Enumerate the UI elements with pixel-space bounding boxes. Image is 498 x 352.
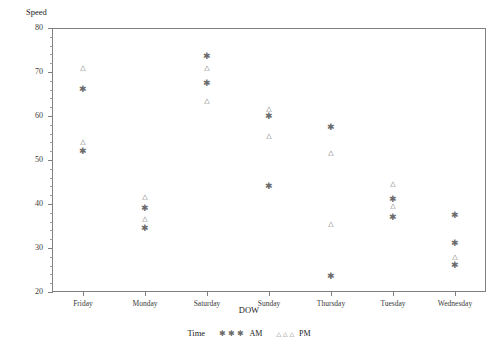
plot-area: 20304050607080 FridayMondaySaturdaySunda… (52, 28, 486, 292)
x-axis-tick (145, 291, 146, 296)
y-axis-minor-tick (50, 90, 53, 91)
data-point-am: ✱ (265, 180, 273, 189)
y-axis-minor-tick (50, 54, 53, 55)
x-axis-tick (331, 291, 332, 296)
y-axis-minor-tick (50, 169, 53, 170)
y-axis-major-tick: 60 (48, 116, 53, 117)
y-axis-minor-tick (50, 125, 53, 126)
y-axis-minor-tick (50, 63, 53, 64)
y-axis-major-tick: 80 (48, 28, 53, 29)
y-axis-minor-tick (50, 195, 53, 196)
legend-entry-am[interactable]: ✱ ✱ ✱ AM (219, 329, 262, 338)
x-axis-tick (455, 291, 456, 296)
data-point-pm: △ (390, 181, 395, 188)
asterisk-icon: ✱ ✱ ✱ (219, 329, 244, 338)
y-axis-minor-tick (50, 283, 53, 284)
y-axis-tick-label: 40 (35, 200, 43, 208)
y-axis-minor-tick (50, 274, 53, 275)
data-point-am: ✱ (451, 259, 459, 268)
y-axis-tick-label: 70 (35, 68, 43, 76)
data-point-am: ✱ (203, 76, 211, 85)
data-point-am: ✱ (389, 211, 397, 220)
y-axis-minor-tick (50, 230, 53, 231)
data-point-am: ✱ (451, 208, 459, 217)
y-axis-major-tick: 20 (48, 292, 53, 293)
data-point-pm: △ (80, 64, 85, 71)
x-axis-title: DOW (0, 306, 498, 315)
data-point-pm: △ (328, 220, 333, 227)
y-axis-major-tick: 30 (48, 248, 53, 249)
x-axis-tick (269, 291, 270, 296)
y-axis-minor-tick (50, 186, 53, 187)
y-axis-major-tick: 70 (48, 72, 53, 73)
y-axis-tick-label: 20 (35, 288, 43, 296)
data-point-am: ✱ (265, 109, 273, 118)
data-point-pm: △ (204, 97, 209, 104)
y-axis-minor-tick (50, 107, 53, 108)
data-point-pm: △ (80, 139, 85, 146)
data-point-am: ✱ (79, 145, 87, 154)
y-axis-minor-tick (50, 142, 53, 143)
data-point-pm: △ (390, 203, 395, 210)
data-point-am: ✱ (327, 120, 335, 129)
data-point-pm: △ (266, 132, 271, 139)
y-axis-minor-tick (50, 213, 53, 214)
x-axis-tick (393, 291, 394, 296)
y-axis-major-tick: 50 (48, 160, 53, 161)
y-axis-minor-tick (50, 151, 53, 152)
data-point-pm: △ (142, 194, 147, 201)
data-point-am: ✱ (141, 202, 149, 211)
y-axis-tick-label: 60 (35, 112, 43, 120)
y-axis-tick-label: 80 (35, 24, 43, 32)
y-axis-minor-tick (50, 266, 53, 267)
legend-label-pm: PM (299, 329, 311, 338)
data-point-am: ✱ (327, 270, 335, 279)
y-axis-major-tick: 40 (48, 204, 53, 205)
data-point-pm: △ (452, 253, 457, 260)
y-axis-tick-label: 50 (35, 156, 43, 164)
top-frame-line (52, 28, 486, 29)
data-point-pm: △ (328, 150, 333, 157)
y-axis-minor-tick (50, 46, 53, 47)
y-axis-minor-tick (50, 37, 53, 38)
x-axis-tick (83, 291, 84, 296)
data-point-pm: △ (204, 64, 209, 71)
y-axis-minor-tick (50, 134, 53, 135)
data-point-am: ✱ (203, 50, 211, 59)
y-axis-minor-tick (50, 239, 53, 240)
data-point-am: ✱ (141, 222, 149, 231)
y-axis-tick-label: 30 (35, 244, 43, 252)
legend: Time ✱ ✱ ✱ AM △ △ △ PM (0, 328, 498, 338)
triangle-icon: △ △ △ (276, 330, 294, 337)
scatter-plot-figure: Speed 20304050607080 FridayMondaySaturda… (0, 0, 498, 352)
legend-title: Time (187, 328, 205, 338)
y-axis-title: Speed (26, 8, 47, 17)
y-axis-minor-tick (50, 222, 53, 223)
legend-entry-pm[interactable]: △ △ △ PM (276, 329, 310, 338)
right-frame-line (485, 28, 486, 292)
y-axis-minor-tick (50, 98, 53, 99)
y-axis-minor-tick (50, 178, 53, 179)
data-point-am: ✱ (389, 193, 397, 202)
y-axis-minor-tick (50, 81, 53, 82)
legend-label-am: AM (249, 329, 262, 338)
x-axis-tick (207, 291, 208, 296)
data-point-am: ✱ (79, 83, 87, 92)
data-point-am: ✱ (451, 237, 459, 246)
y-axis-minor-tick (50, 257, 53, 258)
data-point-pm: △ (142, 216, 147, 223)
data-point-pm: △ (266, 106, 271, 113)
